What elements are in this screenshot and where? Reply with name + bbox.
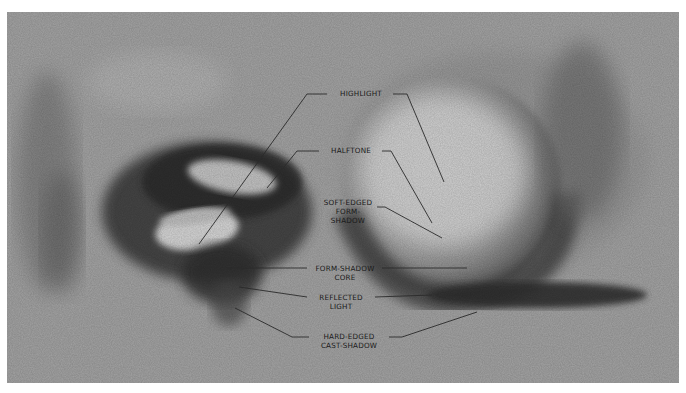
label-halftone: HALFTONE — [319, 146, 383, 155]
label-core-line2: CORE — [307, 273, 383, 282]
label-form-shadow-core: FORM-SHADOW CORE — [307, 264, 383, 282]
label-soft-edged-line1: SOFT-EDGED — [317, 198, 379, 207]
label-cast-line1: HARD-EDGED — [307, 332, 391, 341]
label-reflected-line2: LIGHT — [307, 302, 375, 311]
label-cast-line2: CAST-SHADOW — [307, 341, 391, 350]
label-halftone-line1: HALFTONE — [319, 146, 383, 155]
label-soft-edged-form-shadow: SOFT-EDGED FORM- SHADOW — [317, 198, 379, 225]
label-reflected-line1: REFLECTED — [307, 293, 375, 302]
label-core-line1: FORM-SHADOW — [307, 264, 383, 273]
label-soft-edged-line2: FORM- — [317, 207, 379, 216]
drawing-canvas: HIGHLIGHT HALFTONE SOFT-EDGED FORM- SHAD… — [7, 12, 679, 383]
label-hard-edged-cast-shadow: HARD-EDGED CAST-SHADOW — [307, 332, 391, 350]
label-highlight-line1: HIGHLIGHT — [327, 89, 395, 98]
label-soft-edged-line3: SHADOW — [317, 216, 379, 225]
label-reflected-light: REFLECTED LIGHT — [307, 293, 375, 311]
label-highlight: HIGHLIGHT — [327, 89, 395, 98]
